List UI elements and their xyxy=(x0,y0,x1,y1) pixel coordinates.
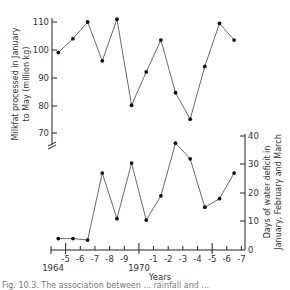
upper-ytick-90: 90 xyxy=(38,73,49,83)
lower-ytick-30: 30 xyxy=(248,159,259,169)
xlabel-1970: 1970 xyxy=(128,263,150,273)
data-point xyxy=(71,237,75,241)
data-point xyxy=(86,238,90,242)
lower-y-axis: 40 30 20 10 0 xyxy=(240,131,259,255)
data-point xyxy=(232,38,236,42)
data-point xyxy=(56,237,60,241)
data-point xyxy=(174,91,178,95)
upper-series-milkfat xyxy=(56,17,236,121)
figure-canvas: 110 100 90 80 70 Milkfat processed in Ja… xyxy=(0,0,290,290)
data-point xyxy=(174,141,178,145)
xlabel-1964: 1964 xyxy=(42,263,64,273)
lower-ytick-40: 40 xyxy=(248,131,259,141)
xtick-label: -3 xyxy=(179,254,187,264)
data-point xyxy=(188,157,192,161)
upper-ytick-110: 110 xyxy=(33,17,49,27)
data-point xyxy=(159,38,163,42)
lower-series-water-deficit xyxy=(56,141,236,242)
data-point xyxy=(56,51,60,55)
data-point xyxy=(203,65,207,69)
x-axis: -5-6-7-8-9-1-2-3-4-5-6-7 1964 1970 Years xyxy=(42,243,246,282)
lower-ytick-20: 20 xyxy=(248,188,259,198)
upper-ytick-70: 70 xyxy=(38,128,49,138)
data-point xyxy=(100,59,104,63)
xtick-label: -2 xyxy=(164,254,172,264)
lower-ylabel-line2: January, February and March xyxy=(274,134,283,250)
xtick-label: -4 xyxy=(193,254,201,264)
data-point xyxy=(71,37,75,41)
lower-ytick-0: 0 xyxy=(248,245,253,255)
upper-y-axis: 110 100 90 80 70 xyxy=(33,17,57,149)
upper-ylabel-line1: Milkfat processed in January xyxy=(11,27,20,140)
upper-ytick-80: 80 xyxy=(38,101,49,111)
xtick-label: -6 xyxy=(76,254,84,264)
data-point xyxy=(159,194,163,198)
upper-ytick-100: 100 xyxy=(33,45,49,55)
data-point xyxy=(188,117,192,121)
lower-ytick-10: 10 xyxy=(248,216,259,226)
data-point xyxy=(203,205,207,209)
xtick-label: -1 xyxy=(149,254,157,264)
figure-caption: Fig. 10.3. The association between ... r… xyxy=(2,281,290,290)
data-point xyxy=(115,17,119,21)
data-point xyxy=(144,70,148,74)
data-point xyxy=(130,161,134,165)
xtick-label: -7 xyxy=(237,254,245,264)
data-point xyxy=(144,218,148,222)
lower-ylabel-line1: Days of water deficit in xyxy=(263,146,272,239)
xtick-label: -7 xyxy=(91,254,99,264)
data-point xyxy=(115,217,119,221)
xtick-label: -6 xyxy=(223,254,231,264)
data-point xyxy=(218,21,222,25)
data-point xyxy=(130,103,134,107)
data-point xyxy=(100,171,104,175)
xtick-label: -5 xyxy=(208,254,216,264)
data-point xyxy=(86,20,90,24)
data-point xyxy=(232,171,236,175)
data-point xyxy=(218,197,222,201)
xtick-label: -8 xyxy=(105,254,113,264)
upper-ylabel-line2: to May (million kg) xyxy=(22,47,31,122)
